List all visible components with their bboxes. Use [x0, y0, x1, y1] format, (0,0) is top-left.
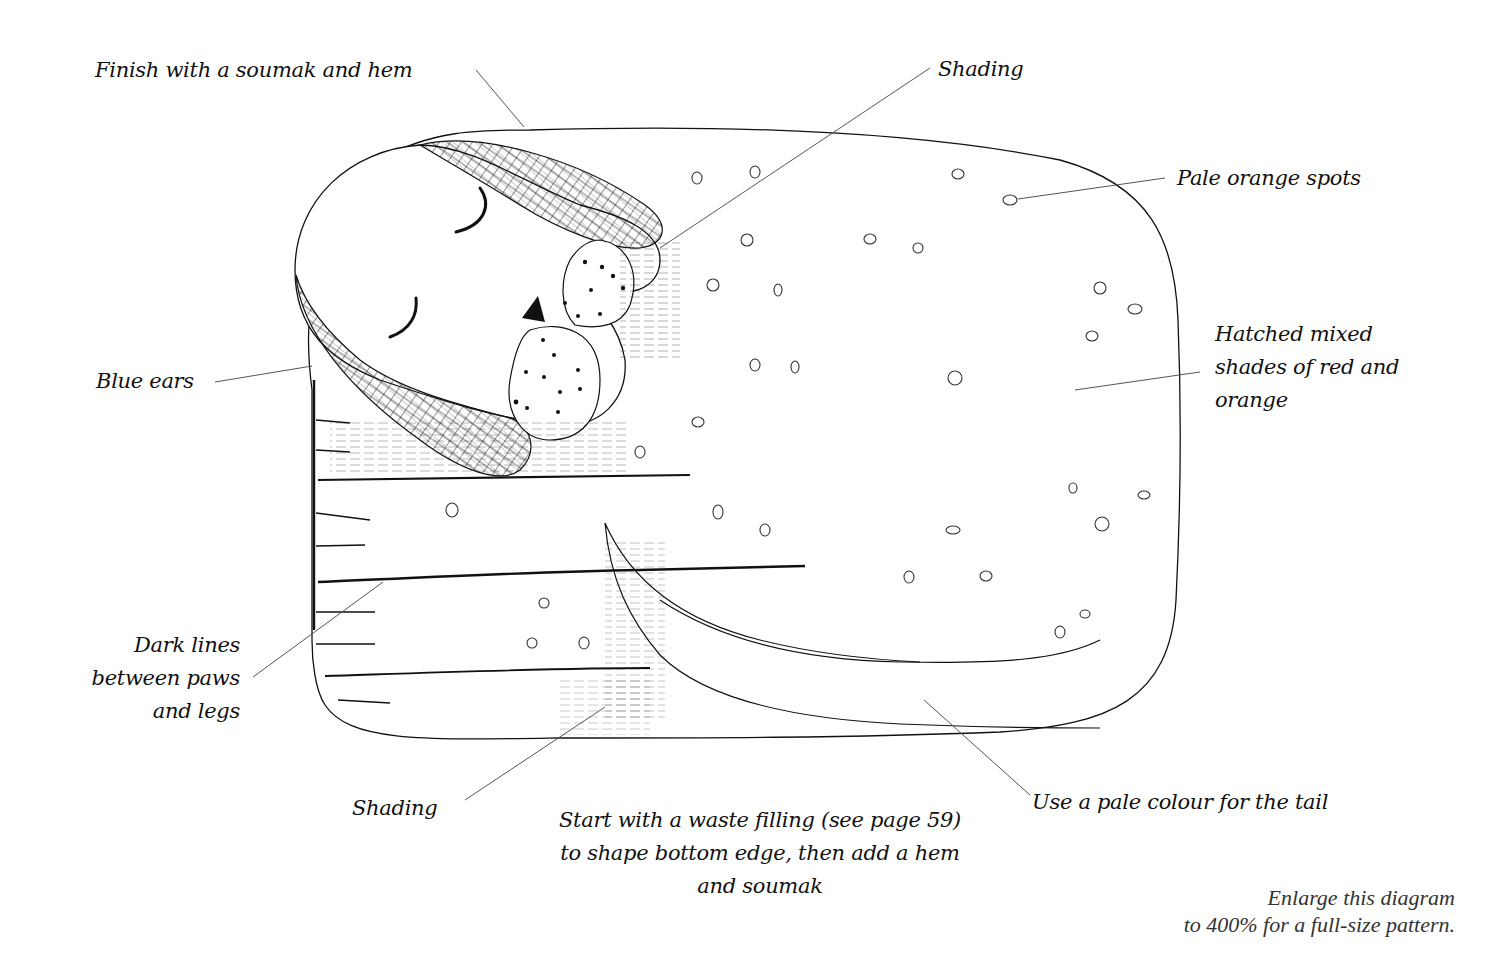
- enlarge-note-line: Enlarge this diagram: [1080, 884, 1455, 911]
- enlarge-note-line: to 400% for a full-size pattern.: [1080, 911, 1455, 938]
- enlarge-note: Enlarge this diagram to 400% for a full-…: [1080, 884, 1455, 938]
- label-start-line: Start with a waste filling (see page 59): [520, 804, 1000, 837]
- leg-line-2: [318, 566, 805, 582]
- label-dark-lines-line: Dark lines: [70, 629, 240, 662]
- label-dark-lines-line: and legs: [70, 695, 240, 728]
- label-hatched-body: Hatched mixed shades of red and orange: [1215, 318, 1399, 417]
- label-dark-lines-line: between paws: [70, 662, 240, 695]
- label-shading-top: Shading: [938, 53, 1023, 86]
- label-tail: Use a pale colour for the tail: [1032, 786, 1328, 819]
- tail-inner-line: [660, 600, 1100, 662]
- tail-outline: [605, 523, 1100, 728]
- label-pale-orange-spots: Pale orange spots: [1177, 162, 1361, 195]
- label-dark-lines: Dark lines between paws and legs: [70, 629, 240, 728]
- label-start-waste-filling: Start with a waste filling (see page 59)…: [520, 804, 1000, 903]
- label-shading-bottom: Shading: [352, 792, 437, 825]
- label-finish: Finish with a soumak and hem: [95, 54, 412, 87]
- label-blue-ears: Blue ears: [96, 365, 194, 398]
- label-start-line: and soumak: [520, 870, 1000, 903]
- pattern-diagram: Finish with a soumak and hem Shading Pal…: [0, 0, 1494, 956]
- leg-line-3: [325, 668, 650, 676]
- label-hatched-body-line: orange: [1215, 384, 1399, 417]
- label-hatched-body-line: shades of red and: [1215, 351, 1399, 384]
- label-hatched-body-line: Hatched mixed: [1215, 318, 1399, 351]
- label-start-line: to shape bottom edge, then add a hem: [520, 837, 1000, 870]
